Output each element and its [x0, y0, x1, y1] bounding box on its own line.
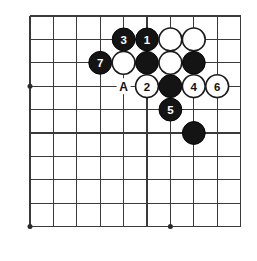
stone-white-4[interactable]: 4 [182, 75, 205, 98]
stone-body [182, 28, 205, 51]
stone-move-number: 3 [120, 34, 126, 46]
stone-black[interactable] [182, 122, 205, 145]
stone-black-7[interactable]: 7 [89, 51, 112, 74]
stone-black[interactable] [159, 75, 182, 98]
stone-black-3[interactable]: 3 [112, 28, 135, 51]
stone-move-number: 2 [144, 81, 150, 93]
stone-body [112, 51, 135, 74]
stone-move-number: 4 [191, 81, 198, 93]
stone-white-6[interactable]: 6 [206, 75, 229, 98]
stone-black-5[interactable]: 5 [159, 98, 182, 121]
stone-black-1[interactable]: 1 [136, 28, 159, 51]
stone-black[interactable] [182, 51, 205, 74]
grid-lines-layer [30, 16, 241, 227]
star-point [168, 224, 173, 229]
stone-white[interactable] [159, 28, 182, 51]
stone-move-number: 7 [97, 57, 103, 69]
point-marker-a: A [119, 80, 128, 94]
stone-move-number: 6 [214, 81, 220, 93]
stone-white[interactable] [182, 28, 205, 51]
stone-body [182, 122, 205, 145]
star-point [28, 84, 33, 89]
star-point [28, 224, 33, 229]
go-board-figure: A 3172465 [0, 0, 257, 261]
stone-move-number: 1 [144, 34, 151, 46]
stone-white-2[interactable]: 2 [136, 75, 159, 98]
stone-body [159, 75, 182, 98]
stone-black[interactable] [136, 51, 159, 74]
point-markers-layer: A [117, 78, 131, 94]
stone-body [136, 51, 159, 74]
stone-white[interactable] [159, 51, 182, 74]
stone-body [159, 51, 182, 74]
stone-body [159, 28, 182, 51]
goban-svg: A 3172465 [0, 0, 257, 261]
stone-body [182, 51, 205, 74]
stone-move-number: 5 [167, 104, 174, 116]
stone-white[interactable] [112, 51, 135, 74]
